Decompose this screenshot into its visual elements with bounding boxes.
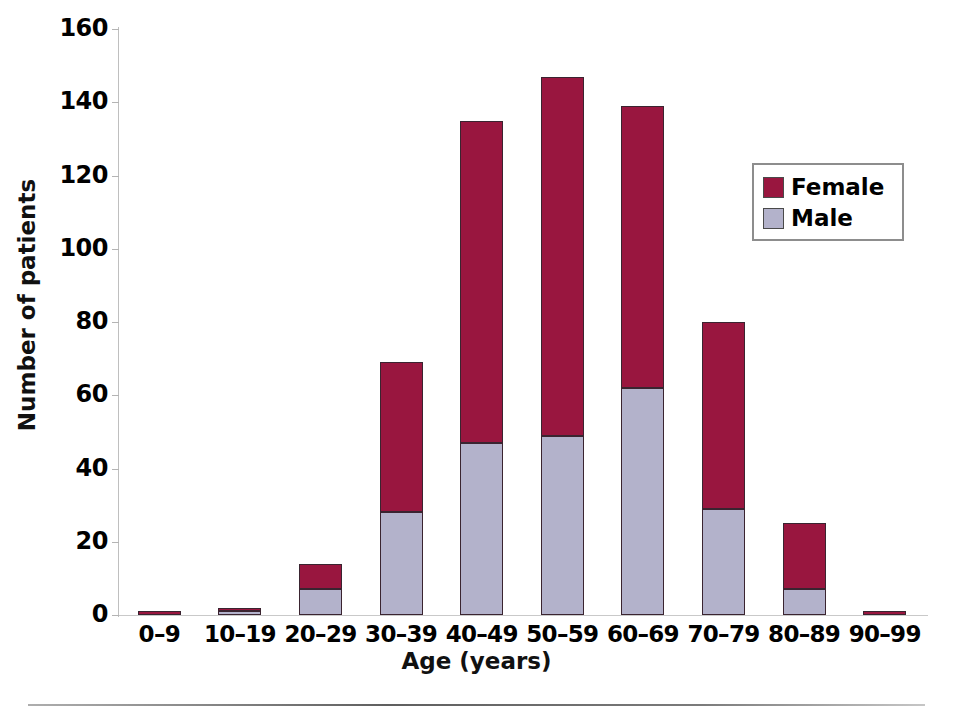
y-tick-label: 160 [59, 14, 108, 42]
legend-item-female: Female [763, 172, 902, 203]
bar-segment-male [299, 589, 342, 615]
plot-area [119, 29, 925, 615]
y-tick-mark [112, 542, 119, 543]
bar-group [299, 564, 342, 615]
footer-divider [28, 704, 925, 706]
legend-item-male: Male [763, 203, 902, 234]
y-axis-title: Number of patients [14, 125, 40, 485]
y-tick-mark [112, 249, 119, 250]
bar-group [380, 362, 423, 615]
y-tick-label: 20 [76, 527, 108, 555]
y-tick-label: 100 [59, 234, 108, 262]
x-tick-label: 90–99 [825, 621, 945, 647]
figure-container: 020406080100120140160 0–910–1920–2930–39… [0, 0, 953, 724]
y-tick-mark [112, 102, 119, 103]
y-tick-label: 120 [59, 161, 108, 189]
y-tick-label: 40 [76, 454, 108, 482]
y-tick-mark [112, 615, 119, 616]
bar-segment-male [621, 388, 664, 615]
bar-group [460, 121, 503, 615]
bar-segment-female [299, 564, 342, 590]
bar-segment-female [783, 523, 826, 589]
bar-segment-female [621, 106, 664, 388]
bar-segment-female [702, 322, 745, 509]
y-tick-label: 140 [59, 87, 108, 115]
bar-group [218, 608, 261, 615]
bar-group [541, 77, 584, 615]
y-tick-label: 80 [76, 307, 108, 335]
y-tick-mark [112, 176, 119, 177]
bar-segment-female [541, 77, 584, 436]
bar-group [702, 322, 745, 615]
x-axis-title: Age (years) [0, 648, 953, 674]
x-axis-line [118, 615, 928, 616]
bar-group [621, 106, 664, 615]
legend-label-male: Male [791, 207, 853, 230]
y-tick-label: 60 [76, 380, 108, 408]
y-tick-mark [112, 469, 119, 470]
bar-segment-female [218, 608, 261, 612]
bar-group [783, 523, 826, 615]
bar-segment-male [783, 589, 826, 615]
bar-segment-female [460, 121, 503, 443]
bar-segment-male [702, 509, 745, 615]
legend-swatch-male [763, 208, 784, 229]
bar-segment-male [380, 512, 423, 615]
chart-legend: Female Male [752, 163, 904, 241]
bar-segment-male [541, 436, 584, 615]
bar-segment-male [460, 443, 503, 615]
footer-caption [30, 712, 930, 724]
legend-label-female: Female [791, 176, 884, 199]
y-tick-mark [112, 322, 119, 323]
bar-segment-female [380, 362, 423, 512]
y-tick-mark [112, 395, 119, 396]
y-tick-mark [112, 29, 119, 30]
legend-swatch-female [763, 177, 784, 198]
